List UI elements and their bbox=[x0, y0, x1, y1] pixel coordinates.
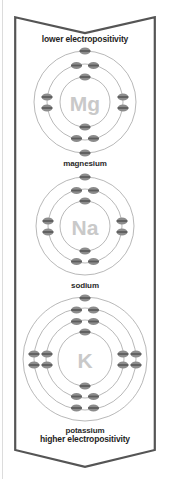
magnesium-name-label: magnesium bbox=[63, 159, 107, 168]
lower-electropositivity-label: lower electropositivity bbox=[42, 34, 128, 44]
atom-diagram-magnesium: Mg m bbox=[25, 46, 145, 168]
potassium-symbol: K bbox=[77, 349, 92, 372]
sodium-shell-svg: Na bbox=[25, 172, 145, 280]
atom-diagram-potassium: K bbox=[19, 293, 151, 435]
potassium-shell-svg: K bbox=[19, 293, 151, 425]
atom-diagram-sodium: Na sodium bbox=[25, 172, 145, 290]
magnesium-symbol: Mg bbox=[70, 92, 100, 115]
electropositivity-panel: lower electropositivity Mg bbox=[14, 16, 156, 468]
higher-electropositivity-label: higher electropositivity bbox=[14, 434, 156, 444]
sodium-symbol: Na bbox=[72, 216, 99, 239]
panel-content: lower electropositivity Mg bbox=[14, 16, 156, 468]
page-left-rule bbox=[2, 0, 3, 479]
magnesium-shell-svg: Mg bbox=[25, 46, 145, 158]
sodium-name-label: sodium bbox=[71, 281, 99, 290]
